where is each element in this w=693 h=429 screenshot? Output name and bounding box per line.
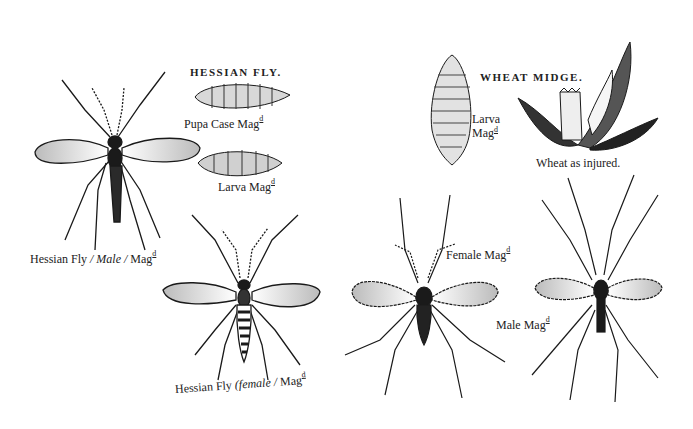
wheat-midge-section-title: WHEAT MIDGE. — [480, 71, 583, 83]
caption-superscript: d — [271, 177, 275, 186]
wheat-midge-larva-figure — [431, 55, 471, 165]
caption-text: Larva Mag — [218, 180, 271, 194]
hessian-pupa-case-caption: Pupa Case Magd — [184, 117, 263, 132]
caption-text: Female Mag — [446, 248, 506, 262]
wheat-midge-male-figure — [532, 175, 662, 402]
insect-illustrations — [0, 0, 693, 429]
hessian-larva-caption: Larva Magd — [218, 180, 275, 195]
caption-superscript: d — [152, 249, 156, 258]
caption-text: Larva — [472, 112, 500, 126]
caption-superscript: d — [506, 245, 510, 254]
caption-superscript: d — [259, 114, 263, 123]
injured-wheat-caption: Wheat as injured. — [536, 156, 620, 171]
hessian-male-caption: Hessian Fly / Male / Magd — [30, 252, 156, 267]
caption-text: Pupa Case Mag — [184, 117, 259, 131]
caption-italic: / Male / — [90, 252, 127, 266]
caption-superscript-wrap: Mag — [277, 373, 303, 389]
caption-italic: (female / — [234, 375, 277, 392]
engraving-plate: HESSIAN FLY. Pupa Case Magd Larva Magd H… — [0, 0, 693, 429]
caption-text: Mag — [472, 126, 494, 140]
hessian-fly-female-figure — [163, 215, 320, 380]
injured-wheat-figure — [518, 42, 658, 150]
hessian-fly-male-figure — [35, 72, 200, 250]
wheat-midge-male-caption: Male Magd — [496, 318, 550, 333]
caption-superscript: d — [494, 125, 498, 134]
caption-text: Hessian Fly — [30, 252, 90, 266]
caption-text: Male Mag — [496, 318, 546, 332]
hessian-pupa-case-figure — [195, 83, 290, 109]
caption-text: Hessian Fly — [174, 378, 235, 396]
caption-superscript: d — [546, 315, 550, 324]
hessian-fly-section-title: HESSIAN FLY. — [190, 66, 282, 78]
wheat-midge-female-caption: Female Magd — [446, 248, 510, 263]
hessian-larva-figure — [198, 150, 282, 176]
wheat-midge-larva-caption: LarvaMagd — [472, 112, 500, 140]
caption-text: Mag — [127, 252, 152, 266]
wheat-midge-female-figure — [345, 195, 505, 398]
